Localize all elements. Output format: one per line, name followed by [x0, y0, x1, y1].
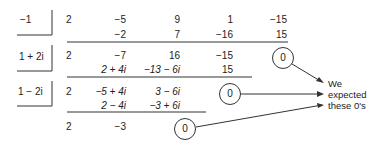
cell: −7 — [96, 50, 126, 62]
cell: 16 — [150, 50, 180, 62]
annotation-note: We expected these 0's — [328, 78, 367, 111]
note-line-2: expected — [328, 89, 367, 100]
cell: −16 — [203, 29, 233, 41]
divisor-1: −1 — [20, 14, 31, 26]
divisor-2: 1 + 2i — [19, 51, 44, 63]
zero-1: 0 — [273, 52, 293, 64]
note-line-3: these 0's — [328, 100, 367, 111]
cell: 9 — [150, 14, 180, 26]
divisor-3: 1 − 2i — [18, 86, 43, 98]
cell: −5 + 4i — [76, 86, 126, 98]
cell: −3 + 6i — [130, 100, 180, 112]
cell: 1 — [203, 14, 233, 26]
cell: 2 − 4i — [86, 100, 126, 112]
cell: −13 − 6i — [130, 64, 180, 76]
cell: −2 — [96, 29, 126, 41]
cell: 2 + 4i — [86, 64, 126, 76]
cell: 2 — [66, 50, 72, 62]
arrow-3 — [196, 105, 322, 127]
cell: −15 — [257, 14, 287, 26]
cell: −5 — [96, 14, 126, 26]
cell: 2 — [66, 86, 72, 98]
zero-2: 0 — [220, 88, 240, 100]
zero-3: 0 — [175, 123, 195, 135]
cell: −15 — [203, 50, 233, 62]
note-line-1: We — [328, 78, 367, 89]
cell: −3 — [96, 121, 126, 133]
cell: 2 — [66, 14, 72, 26]
cell: 15 — [203, 64, 233, 76]
cell: 2 — [66, 121, 72, 133]
cell: 7 — [150, 29, 180, 41]
cell: 15 — [257, 29, 287, 41]
cell: 3 − 6i — [130, 86, 180, 98]
